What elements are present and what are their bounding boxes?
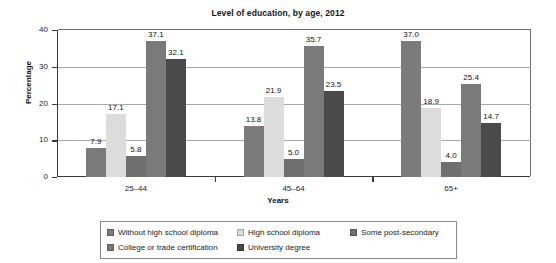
bar-value-label: 21.9 xyxy=(258,86,290,95)
bar xyxy=(461,84,481,177)
x-group-label: 45–64 xyxy=(254,184,334,193)
bar xyxy=(244,126,264,177)
legend-item[interactable]: High school diploma xyxy=(237,228,320,237)
bar xyxy=(324,91,344,177)
bar xyxy=(86,148,106,177)
y-tick-label: 40 xyxy=(14,25,48,34)
legend-swatch-icon xyxy=(237,229,244,236)
x-group-label: 25–44 xyxy=(96,184,176,193)
legend-item[interactable]: Without high school diploma xyxy=(107,228,218,237)
y-tick-mark xyxy=(52,177,57,178)
legend-label: College or trade certification xyxy=(118,243,218,252)
bar-value-label: 32.1 xyxy=(160,48,192,57)
legend-swatch-icon xyxy=(107,244,114,251)
bar-chart: Level of education, by age, 2012 Percent… xyxy=(0,0,556,263)
y-tick-label: 0 xyxy=(14,172,48,181)
y-tick-label: 10 xyxy=(14,135,48,144)
x-tick-mark xyxy=(215,177,216,182)
legend-swatch-icon xyxy=(350,229,357,236)
bar-value-label: 25.4 xyxy=(455,73,487,82)
bar xyxy=(284,159,304,177)
bar xyxy=(421,108,441,177)
bar xyxy=(304,46,324,177)
legend: Without high school diplomaHigh school d… xyxy=(100,221,457,259)
bar xyxy=(481,123,501,177)
bar-value-label: 37.0 xyxy=(395,30,427,39)
legend-item[interactable]: College or trade certification xyxy=(107,243,218,252)
y-tick-label: 30 xyxy=(14,62,48,71)
bar xyxy=(264,97,284,177)
bars-layer: 7.917.15.837.132.113.821.95.035.723.537.… xyxy=(57,30,530,177)
x-axis-title: Years xyxy=(0,196,556,205)
legend-label: Some post-secondary xyxy=(361,228,439,237)
legend-item[interactable]: University degree xyxy=(237,243,310,252)
y-tick-label: 20 xyxy=(14,99,48,108)
bar xyxy=(126,156,146,177)
legend-label: High school diploma xyxy=(248,228,320,237)
legend-swatch-icon xyxy=(237,244,244,251)
legend-label: Without high school diploma xyxy=(118,228,218,237)
y-axis-title: Percentage xyxy=(24,33,33,133)
bar xyxy=(146,41,166,177)
bar-value-label: 17.1 xyxy=(100,103,132,112)
legend-item[interactable]: Some post-secondary xyxy=(350,228,439,237)
bar-value-label: 18.9 xyxy=(415,97,447,106)
bar-value-label: 37.1 xyxy=(140,30,172,39)
x-group-label: 65+ xyxy=(411,184,491,193)
bar-value-label: 14.7 xyxy=(475,112,507,121)
bar-value-label: 35.7 xyxy=(298,35,330,44)
bar xyxy=(401,41,421,177)
bar xyxy=(166,59,186,177)
bar xyxy=(441,162,461,177)
chart-title: Level of education, by age, 2012 xyxy=(0,8,556,18)
bar-value-label: 23.5 xyxy=(318,80,350,89)
legend-label: University degree xyxy=(248,243,310,252)
legend-swatch-icon xyxy=(107,229,114,236)
x-tick-mark xyxy=(372,177,373,182)
